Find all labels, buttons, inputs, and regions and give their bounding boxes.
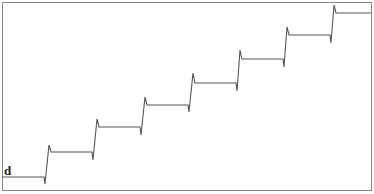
panel-label: d [4,163,11,179]
step-series-line [2,5,371,184]
plot-frame [3,3,372,191]
staircase-chart [0,0,374,194]
